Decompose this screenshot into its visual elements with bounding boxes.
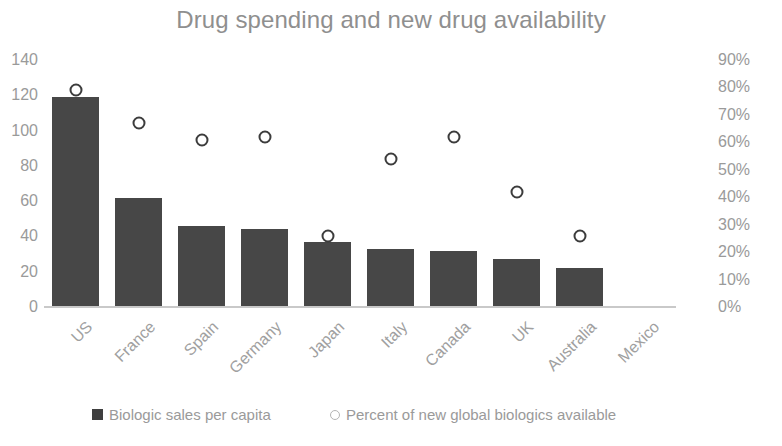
- legend-label-percent-available: Percent of new global biologics availabl…: [346, 406, 616, 423]
- y-axis-left: 020406080100120140: [0, 60, 38, 307]
- y-axis-right-tick: 40%: [718, 189, 750, 205]
- y-axis-right-tick: 20%: [718, 244, 750, 260]
- chart-legend: Biologic sales per capita Percent of new…: [0, 404, 782, 434]
- data-point-marker: [321, 229, 334, 242]
- data-point-marker: [447, 130, 460, 143]
- y-axis-right-tick: 30%: [718, 217, 750, 233]
- data-point-marker: [384, 152, 397, 165]
- data-point-marker: [69, 84, 82, 97]
- y-axis-right-tick: 80%: [718, 79, 750, 95]
- data-point-marker: [195, 133, 208, 146]
- bar: [178, 226, 225, 307]
- y-axis-right: 0%10%20%30%40%50%60%70%80%90%: [718, 60, 778, 307]
- bar: [430, 251, 477, 307]
- y-axis-right-tick: 0%: [718, 299, 741, 315]
- legend-circle-icon: [330, 410, 340, 420]
- plot-area: [44, 60, 674, 307]
- x-axis-labels: USFranceSpainGermanyJapanItalyCanadaUKAu…: [44, 310, 676, 390]
- y-axis-right-tick: 60%: [718, 134, 750, 150]
- bar: [115, 198, 162, 307]
- y-axis-left-tick: 40: [20, 228, 38, 244]
- bar: [556, 268, 603, 307]
- data-point-marker: [510, 185, 523, 198]
- y-axis-right-tick: 90%: [718, 52, 750, 68]
- bar: [493, 259, 540, 307]
- legend-label-biologic-sales: Biologic sales per capita: [109, 406, 271, 423]
- legend-item-percent-available: Percent of new global biologics availabl…: [330, 406, 616, 423]
- y-axis-left-tick: 80: [20, 158, 38, 174]
- chart-container: Drug spending and new drug availability …: [0, 0, 782, 446]
- x-axis-category-label: US: [56, 318, 97, 359]
- data-point-marker: [573, 229, 586, 242]
- y-axis-left-tick: 120: [11, 87, 38, 103]
- y-axis-left-tick: 0: [29, 299, 38, 315]
- axis-baseline: [44, 306, 676, 308]
- data-point-marker: [132, 117, 145, 130]
- bar: [367, 249, 414, 307]
- y-axis-right-tick: 50%: [718, 162, 750, 178]
- data-point-marker: [258, 130, 271, 143]
- y-axis-left-tick: 20: [20, 264, 38, 280]
- chart-title: Drug spending and new drug availability: [0, 6, 782, 34]
- bar: [304, 242, 351, 307]
- y-axis-right-tick: 10%: [718, 272, 750, 288]
- y-axis-left-tick: 60: [20, 193, 38, 209]
- y-axis-left-tick: 100: [11, 123, 38, 139]
- legend-square-icon: [92, 409, 103, 420]
- y-axis-right-tick: 70%: [718, 107, 750, 123]
- bar: [52, 97, 99, 307]
- y-axis-left-tick: 140: [11, 52, 38, 68]
- legend-item-biologic-sales: Biologic sales per capita: [92, 406, 271, 423]
- bar: [241, 229, 288, 307]
